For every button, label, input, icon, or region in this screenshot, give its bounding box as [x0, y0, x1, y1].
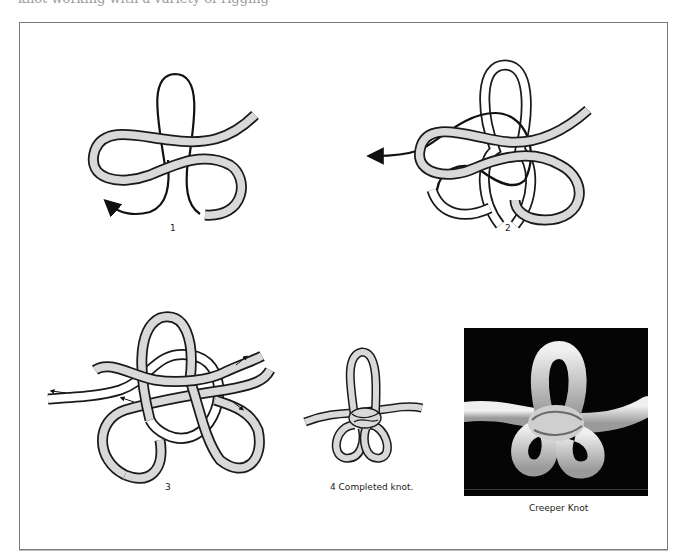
step-3-diagram: [48, 317, 270, 478]
step-4-diagram: [305, 352, 422, 458]
photo-caption: Creeper Knot: [529, 503, 588, 513]
creeper-knot-photo: [464, 328, 648, 496]
rope-photo-image: [464, 328, 648, 496]
photo-edge: [464, 489, 648, 490]
step-1-label: 1: [170, 223, 176, 233]
step-1-diagram: [93, 74, 255, 215]
step-4-label: 4 Completed knot.: [330, 482, 413, 492]
step-3-label: 3: [165, 482, 171, 492]
step-2-diagram: [375, 65, 588, 225]
step-2-label: 2: [505, 223, 511, 233]
